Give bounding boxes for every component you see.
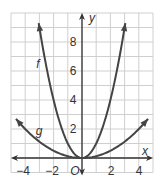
y-tick-label: 2 — [70, 122, 77, 136]
y-tick-label: 6 — [70, 64, 77, 78]
x-tick-label: −4 — [16, 164, 30, 178]
x-tick-label: 2 — [108, 164, 115, 178]
y-axis-label: y — [88, 11, 96, 25]
y-tick-label: 4 — [70, 93, 77, 107]
graph: 8 6 4 2 −4 −2 2 4 O x y f g — [0, 0, 160, 182]
curve-label-g: g — [36, 124, 43, 138]
curve-label-f: f — [36, 57, 41, 71]
origin-label: O — [70, 164, 79, 178]
x-axis-label: x — [141, 144, 149, 158]
y-tick-label: 8 — [70, 35, 77, 49]
axes — [11, 13, 153, 176]
x-tick-label: −2 — [45, 164, 59, 178]
x-tick-label: 4 — [136, 164, 143, 178]
